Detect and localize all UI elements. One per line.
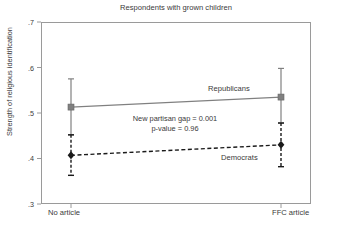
y-tick-label-0.7: .7 (0, 18, 34, 27)
annotation-partisan-gap: New partisan gap = 0.001 (115, 114, 235, 124)
x-tick-label-ffc-article: FFC article (272, 208, 309, 217)
annotation-p-value: p-value = 0.96 (115, 124, 235, 134)
series-label-republicans: Republicans (208, 84, 250, 93)
y-tick-label-0.4: .4 (0, 154, 34, 163)
y-tick-label-0.3: .3 (0, 200, 34, 209)
y-tick-label-0.6: .6 (0, 64, 34, 73)
x-tick-label-no-article: No article (48, 208, 80, 217)
chart-figure: Respondents with grown children Strength… (0, 0, 341, 229)
series-label-democrats: Democrats (221, 153, 258, 162)
y-tick-label-0.5: .5 (0, 109, 34, 118)
